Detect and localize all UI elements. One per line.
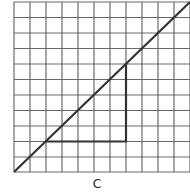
- diagonal-line: [14, 2, 190, 172]
- grid-diagram: [0, 0, 190, 193]
- figure-label: C: [0, 177, 190, 191]
